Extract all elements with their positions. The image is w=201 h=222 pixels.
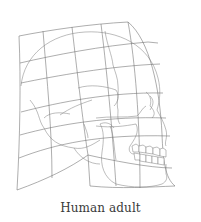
skull-grid-figure xyxy=(0,0,201,200)
skull-grid-illustration xyxy=(0,0,201,200)
figure-caption: Human adult xyxy=(0,201,201,215)
teeth xyxy=(132,144,166,165)
coordinate-grid xyxy=(17,22,175,190)
skull-outline xyxy=(21,31,167,187)
